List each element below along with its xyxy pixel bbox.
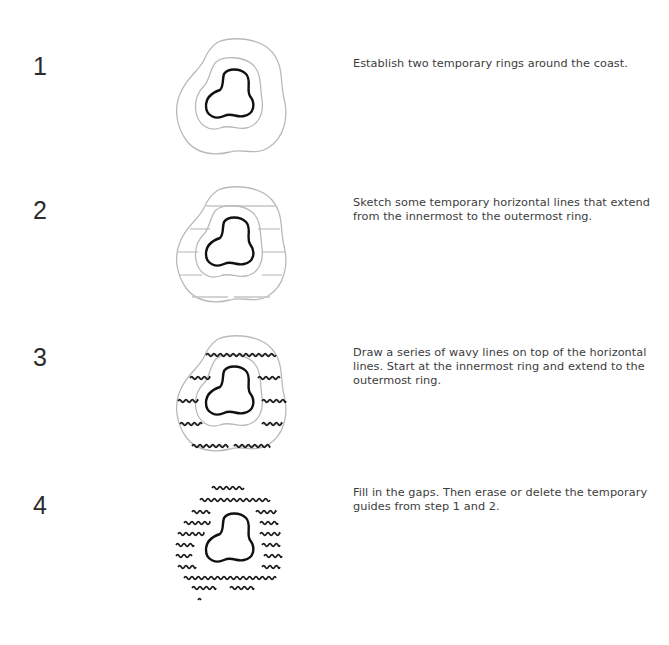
- wavy-line: [260, 522, 278, 525]
- island-coastline: [206, 367, 253, 415]
- island-coastline: [206, 218, 253, 266]
- wavy-line: [184, 522, 210, 525]
- step-3-description: Draw a series of wavy lines on top of th…: [353, 346, 663, 388]
- step-1-figure: [170, 33, 300, 168]
- step-2-figure: [170, 181, 300, 316]
- step-4-figure: [170, 477, 300, 612]
- wavy-line: [212, 487, 244, 490]
- step-4-number: 4: [33, 493, 47, 518]
- step-2-number: 2: [33, 198, 47, 223]
- wavy-line: [256, 511, 276, 514]
- wavy-line: [178, 533, 204, 536]
- step-3-figure: [170, 330, 300, 465]
- wavy-line: [200, 499, 270, 502]
- wavy-line: [176, 544, 194, 547]
- island-coastline: [206, 514, 253, 562]
- wavy-line: [184, 577, 276, 580]
- wavy-line: [178, 566, 196, 569]
- step-1-description: Establish two temporary rings around the…: [353, 57, 663, 71]
- wavy-line: [262, 566, 280, 569]
- wavy-line: [230, 587, 254, 590]
- wavy-line: [192, 511, 210, 514]
- island-coastline: [206, 70, 253, 118]
- wavy-line: [260, 533, 280, 536]
- wavy-line: [264, 555, 282, 558]
- step-2-description: Sketch some temporary horizontal lines t…: [353, 196, 663, 224]
- step-4-description: Fill in the gaps. Then erase or delete t…: [353, 486, 663, 514]
- wavy-line: [198, 599, 201, 600]
- wavy-line: [176, 555, 192, 558]
- step-1-number: 1: [33, 54, 47, 79]
- wavy-line: [262, 544, 280, 547]
- step-3-number: 3: [33, 345, 47, 370]
- wavy-line: [192, 587, 216, 590]
